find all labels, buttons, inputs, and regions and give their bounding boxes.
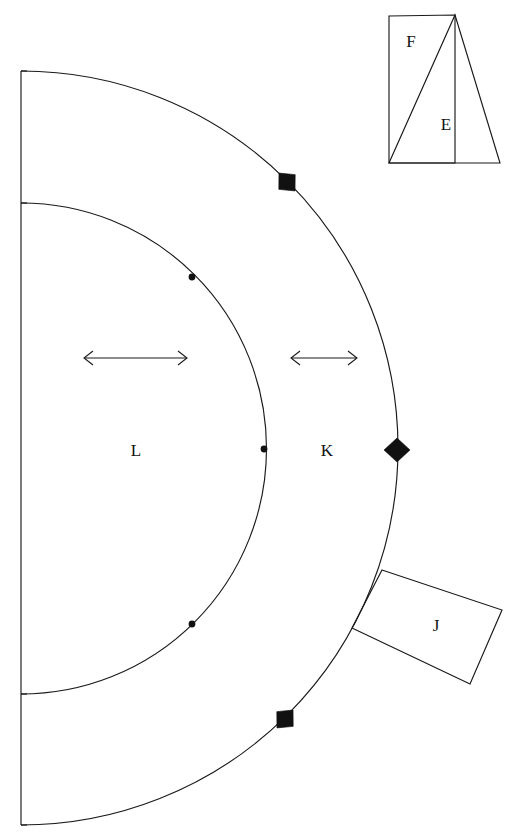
inner-arc [21,203,267,694]
outer-arc [21,71,398,825]
dot-marker-middle [261,446,268,453]
attached-block-j [352,570,502,684]
diamond-marker-bottom [269,703,301,736]
label-triangle: E [441,115,451,134]
label-outer-band: K [321,441,334,460]
label-corner-region: F [406,32,415,51]
dot-marker-bottom [189,621,196,628]
figure-canvas: L K J F E [0,0,520,838]
label-inner-band: L [131,441,141,460]
diamond-marker-middle [384,438,410,462]
label-attached-block: J [433,616,440,635]
dot-marker-top [189,274,196,281]
dimension-arrow-outer [291,351,357,365]
technical-drawing: L K J F E [0,0,520,838]
dimension-arrow-inner [84,351,187,365]
